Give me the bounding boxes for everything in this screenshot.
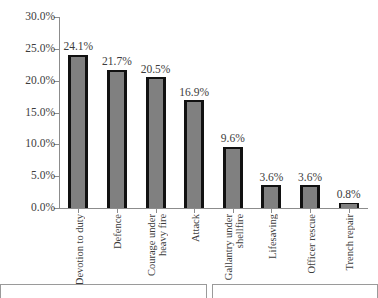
x-tick-label-text: Officer rescue (306, 214, 317, 274)
bar[interactable] (339, 203, 359, 208)
bar[interactable] (300, 185, 320, 208)
bar[interactable] (184, 100, 204, 208)
bar-group[interactable]: 24.1% (68, 17, 88, 208)
x-axis-line (59, 208, 368, 209)
x-tick-mark (310, 209, 311, 213)
bar-group[interactable]: 20.5% (146, 17, 166, 208)
bar-group[interactable]: 16.9% (184, 17, 204, 208)
x-tick-mark (194, 209, 195, 213)
y-tick-label: 15.0% (25, 107, 55, 119)
x-tick-label-text: Gallantry under shellfire (223, 214, 245, 280)
bar-group[interactable]: 3.6% (300, 17, 320, 208)
bar-group[interactable]: 3.6% (261, 17, 281, 208)
bar-value-label: 3.6% (259, 172, 283, 184)
bar[interactable] (146, 77, 166, 208)
bar-value-label: 16.9% (179, 87, 209, 99)
x-tick-label-text: Defence (112, 214, 123, 249)
x-tick-label-text: Lifesaving (267, 214, 278, 259)
bar-group[interactable]: 21.7% (107, 17, 127, 208)
x-tick-mark (117, 209, 118, 213)
bar[interactable] (107, 70, 127, 208)
x-tick-label-text: Courage under heavy fire (146, 214, 168, 276)
x-tick-mark (271, 209, 272, 213)
bar-group[interactable]: 9.6% (223, 17, 243, 208)
x-tick-label-text: Devotion to duty (74, 214, 85, 285)
bar-group[interactable]: 0.8% (339, 17, 359, 208)
bar[interactable] (223, 147, 243, 208)
bottom-panel-left (0, 284, 207, 298)
plot-area: 0.0%5.0%10.0%15.0%20.0%25.0%30.0% 24.1%2… (59, 17, 368, 208)
bar-value-label: 24.1% (63, 41, 93, 53)
bar-value-label: 20.5% (141, 64, 171, 76)
x-tick-mark (156, 209, 157, 213)
x-tick-mark (349, 209, 350, 213)
y-tick-label: 5.0% (31, 170, 55, 182)
y-tick-label: 20.0% (25, 75, 55, 87)
y-tick-label: 0.0% (31, 202, 55, 214)
bar-value-label: 0.8% (337, 189, 361, 201)
x-tick-mark (233, 209, 234, 213)
x-tick-label-text: Attack (190, 214, 201, 242)
y-tick-label: 10.0% (25, 139, 55, 151)
x-tick-mark (78, 209, 79, 213)
bar-value-label: 9.6% (221, 133, 245, 145)
y-tick-label: 25.0% (25, 43, 55, 55)
x-tick-label-text: Trench repair (344, 214, 355, 270)
bottom-panel-right (212, 284, 378, 298)
bar[interactable] (68, 55, 88, 208)
y-tick-label: 30.0% (25, 11, 55, 23)
bar-value-label: 3.6% (298, 172, 322, 184)
bar-value-label: 21.7% (102, 56, 132, 68)
bar[interactable] (261, 185, 281, 208)
